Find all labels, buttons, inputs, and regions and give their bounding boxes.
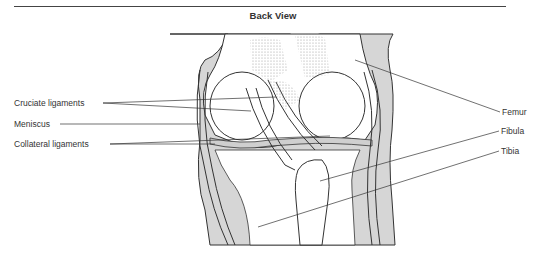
knee-illustration: [0, 0, 546, 261]
fibula-bone: [295, 160, 329, 245]
label-collateral-ligaments: Collateral ligaments: [14, 139, 89, 149]
label-femur: Femur: [502, 107, 527, 117]
label-fibula: Fibula: [501, 126, 524, 136]
lateral-condyle: [299, 72, 365, 140]
label-meniscus: Meniscus: [14, 119, 50, 129]
label-cruciate-ligaments: Cruciate ligaments: [14, 98, 84, 108]
label-tibia: Tibia: [501, 146, 519, 156]
medial-condyle: [210, 72, 274, 140]
